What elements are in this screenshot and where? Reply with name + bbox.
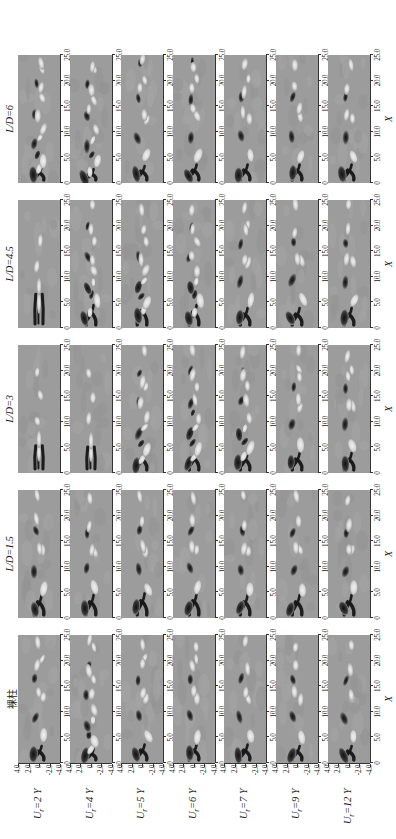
x-tick-mark: [112, 344, 115, 345]
x-tick-mark: [215, 617, 218, 618]
x-tick-mark: [370, 199, 373, 200]
x-tick-label: 10.0: [374, 126, 382, 137]
x-axis-line: [112, 635, 113, 763]
y-tick-mark: [245, 764, 246, 767]
x-tick-mark: [112, 131, 115, 132]
x-tick-mark: [266, 446, 269, 447]
x-tick-mark: [60, 762, 63, 763]
x-axis-line: [60, 55, 61, 183]
x-tick-mark: [370, 540, 373, 541]
x-tick-label: 5.0: [374, 298, 382, 306]
contour-panel-ur7-ld6: [224, 55, 266, 183]
x-tick-mark: [266, 54, 269, 55]
contour-panel-ur5-ld3: [121, 345, 163, 473]
x-tick-mark: [60, 515, 63, 516]
contour-panel-ur7-ld45: [224, 200, 266, 328]
x-axis-line: [370, 635, 371, 763]
contour-panel-ur4-bare: [70, 635, 112, 763]
x-tick-mark: [112, 566, 115, 567]
contour-panel-ur2-bare: [18, 635, 60, 763]
x-axis-line: [215, 200, 216, 328]
x-tick-mark: [266, 566, 269, 567]
y-tick-mark: [224, 764, 225, 767]
x-tick-mark: [112, 225, 115, 226]
x-tick-mark: [60, 80, 63, 81]
x-axis-line: [318, 490, 319, 618]
x-tick-mark: [60, 54, 63, 55]
y-tick-mark: [29, 764, 30, 767]
x-axis-line: [112, 490, 113, 618]
y-tick-mark: [256, 764, 257, 767]
x-tick-mark: [215, 736, 218, 737]
x-tick-label: 0: [374, 181, 382, 184]
x-tick-label: 5.0: [374, 588, 382, 596]
x-tick-label: 10.0: [374, 416, 382, 427]
x-tick-mark: [370, 156, 373, 157]
y-tick-mark: [60, 764, 61, 767]
x-tick-mark: [266, 344, 269, 345]
x-tick-mark: [318, 105, 321, 106]
contour-panel-ur7-bare: [224, 635, 266, 763]
x-tick-mark: [215, 344, 218, 345]
y-axis-title-ur9: Y: [290, 788, 301, 794]
y-tick-labels-ur4: 4.02.00-2.0-4.0: [70, 765, 112, 787]
x-tick-mark: [163, 370, 166, 371]
x-tick-label: 0: [374, 326, 382, 329]
row-label-subscript: r: [243, 809, 252, 812]
contour-panel-ur12-ld6: [328, 55, 370, 183]
x-tick-mark: [370, 421, 373, 422]
x-tick-mark: [60, 370, 63, 371]
x-tick-label: 15.0: [374, 391, 382, 402]
x-tick-mark: [318, 634, 321, 635]
x-tick-mark: [60, 105, 63, 106]
x-tick-mark: [215, 327, 218, 328]
x-tick-mark: [163, 446, 166, 447]
x-tick-mark: [215, 566, 218, 567]
y-axis-title-ur5: Y: [135, 788, 146, 794]
x-tick-mark: [60, 660, 63, 661]
x-tick-mark: [318, 54, 321, 55]
x-tick-mark: [215, 540, 218, 541]
x-tick-mark: [318, 199, 321, 200]
y-tick-mark: [194, 764, 195, 767]
contour-panel-ur9-ld6: [276, 55, 318, 183]
x-tick-mark: [266, 540, 269, 541]
x-tick-mark: [112, 80, 115, 81]
x-tick-mark: [60, 395, 63, 396]
x-tick-mark: [370, 54, 373, 55]
contour-panel-ur5-ld45: [121, 200, 163, 328]
x-tick-mark: [163, 591, 166, 592]
contour-panel-ur2-ld15: [18, 490, 60, 618]
contour-panel-ur12-ld15: [328, 490, 370, 618]
y-axis-title-ur4: Y: [84, 788, 95, 794]
x-tick-label: 15.0: [374, 246, 382, 257]
x-tick-mark: [215, 199, 218, 200]
x-tick-mark: [266, 276, 269, 277]
y-tick-mark: [328, 764, 329, 767]
x-tick-mark: [112, 395, 115, 396]
x-axis-line: [370, 55, 371, 183]
x-tick-mark: [163, 225, 166, 226]
x-tick-mark: [112, 276, 115, 277]
x-tick-mark: [60, 566, 63, 567]
x-tick-mark: [370, 344, 373, 345]
x-tick-mark: [112, 711, 115, 712]
x-tick-mark: [266, 301, 269, 302]
x-tick-mark: [370, 660, 373, 661]
x-tick-mark: [318, 182, 321, 183]
row-label-ur4: Ur=4: [84, 797, 98, 837]
x-tick-mark: [370, 370, 373, 371]
x-tick-mark: [215, 370, 218, 371]
x-tick-mark: [318, 489, 321, 490]
x-tick-label: 25.0: [374, 339, 382, 350]
x-tick-mark: [60, 250, 63, 251]
row-label-value: =9: [290, 797, 301, 809]
x-axis-title: X: [383, 551, 394, 557]
x-tick-mark: [266, 660, 269, 661]
row-label-value: =7: [238, 797, 249, 809]
y-tick-mark: [308, 764, 309, 767]
x-tick-mark: [266, 711, 269, 712]
y-tick-mark: [70, 764, 71, 767]
row-label-value: =6: [187, 797, 198, 809]
x-tick-mark: [266, 327, 269, 328]
